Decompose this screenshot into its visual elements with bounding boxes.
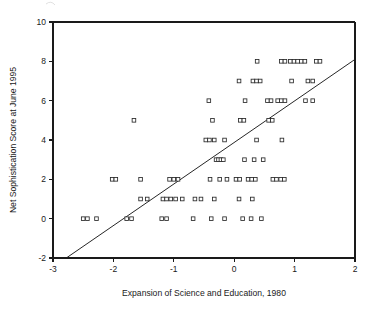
y-tick-label: 8 <box>41 56 46 66</box>
data-point-marker <box>303 60 307 64</box>
data-point-marker <box>258 79 262 83</box>
data-point-marker <box>130 217 134 221</box>
data-point-marker <box>304 99 308 103</box>
y-axis-title: Net Sophistication Score at June 1995 <box>8 67 18 213</box>
data-point-marker <box>165 197 169 201</box>
data-point-marker <box>271 178 275 182</box>
data-point-marker <box>218 178 222 182</box>
data-point-marker <box>252 158 256 162</box>
scatter-plot-figure: -20246810-3-2-1012Expansion of Science a… <box>0 0 375 313</box>
data-point-marker <box>241 217 245 221</box>
x-tick-label: -3 <box>49 264 57 274</box>
data-point-marker <box>270 119 274 123</box>
data-point-marker <box>204 138 208 142</box>
data-point-marker <box>208 178 212 182</box>
data-point-marker <box>269 99 273 103</box>
y-tick-label: 6 <box>41 96 46 106</box>
data-point-marker <box>169 197 173 201</box>
data-point-marker <box>296 60 300 64</box>
x-tick-label: 0 <box>232 264 237 274</box>
data-point-marker <box>160 217 164 221</box>
data-point-marker <box>225 178 229 182</box>
x-tick-label: 1 <box>292 264 297 274</box>
data-point-marker <box>260 217 264 221</box>
data-point-marker <box>211 119 215 123</box>
data-point-marker <box>280 138 284 142</box>
data-point-marker <box>267 119 271 123</box>
scan-artifact <box>46 2 55 5</box>
data-point-marker <box>95 217 99 221</box>
data-point-marker <box>311 79 315 83</box>
y-axis-ticks: -20246810 <box>37 17 53 263</box>
plot-canvas: -20246810-3-2-1012Expansion of Science a… <box>0 0 375 313</box>
data-point-marker <box>255 138 259 142</box>
data-point-marker <box>254 178 258 182</box>
data-point-marker <box>318 60 322 64</box>
data-point-marker <box>161 197 165 201</box>
data-point-marker <box>191 217 195 221</box>
data-point-marker <box>276 99 280 103</box>
data-point-marker <box>242 119 246 123</box>
data-points <box>81 60 321 221</box>
data-point-marker <box>172 178 176 182</box>
data-point-marker <box>168 178 172 182</box>
data-point-marker <box>212 138 216 142</box>
data-point-marker <box>238 119 242 123</box>
data-point-marker <box>290 79 294 83</box>
data-point-marker <box>306 79 310 83</box>
data-point-marker <box>86 217 90 221</box>
data-point-marker <box>255 60 259 64</box>
data-point-marker <box>209 217 213 221</box>
data-point-marker <box>261 158 265 162</box>
data-point-marker <box>283 60 287 64</box>
data-point-marker <box>315 60 319 64</box>
data-point-marker <box>114 178 118 182</box>
data-point-marker <box>243 158 247 162</box>
data-point-marker <box>212 197 216 201</box>
y-tick-label: 10 <box>37 17 47 27</box>
data-point-marker <box>145 197 149 201</box>
data-point-marker <box>193 197 197 201</box>
x-tick-label: -1 <box>170 264 178 274</box>
data-point-marker <box>238 178 242 182</box>
data-point-marker <box>292 60 296 64</box>
data-point-marker <box>280 99 284 103</box>
data-point-marker <box>237 197 241 201</box>
data-point-marker <box>289 60 293 64</box>
data-point-marker <box>299 60 303 64</box>
data-point-marker <box>311 99 315 103</box>
data-point-marker <box>237 79 241 83</box>
data-point-marker <box>255 79 259 83</box>
data-point-marker <box>251 197 255 201</box>
data-point-marker <box>139 178 143 182</box>
data-point-marker <box>165 217 169 221</box>
x-axis-title: Expansion of Science and Education, 1980 <box>122 288 286 298</box>
data-point-marker <box>243 99 247 103</box>
data-point-marker <box>250 178 254 182</box>
y-tick-label: 0 <box>41 214 46 224</box>
data-point-marker <box>280 60 284 64</box>
data-point-marker <box>223 138 227 142</box>
data-point-marker <box>125 217 129 221</box>
data-point-marker <box>223 217 227 221</box>
data-point-marker <box>283 178 287 182</box>
data-point-marker <box>251 79 255 83</box>
data-point-marker <box>132 119 136 123</box>
x-tick-label: 2 <box>353 264 358 274</box>
y-tick-label: 4 <box>41 135 46 145</box>
data-point-marker <box>283 99 287 103</box>
regression-line <box>66 59 355 258</box>
x-axis-ticks: -3-2-1012 <box>49 258 357 274</box>
data-point-marker <box>199 197 203 201</box>
data-point-marker <box>207 99 211 103</box>
data-point-marker <box>208 138 212 142</box>
data-point-marker <box>176 178 180 182</box>
data-point-marker <box>139 197 143 201</box>
data-point-marker <box>279 178 283 182</box>
y-tick-label: -2 <box>38 253 46 263</box>
data-point-marker <box>249 217 253 221</box>
data-point-marker <box>174 197 178 201</box>
data-point-marker <box>246 178 250 182</box>
data-point-marker <box>110 178 114 182</box>
data-point-marker <box>234 178 238 182</box>
